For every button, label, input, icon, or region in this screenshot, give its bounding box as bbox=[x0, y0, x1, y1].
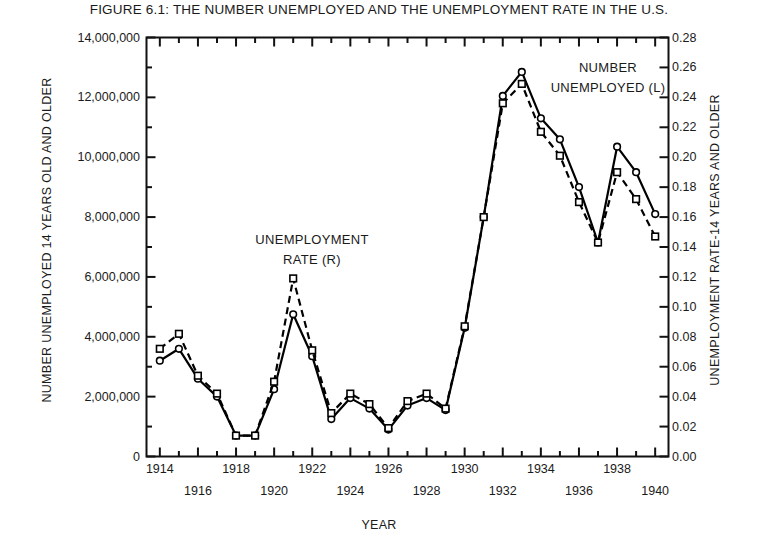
figure-unemployment-chart: FIGURE 6.1: THE NUMBER UNEMPLOYED AND TH… bbox=[0, 0, 758, 548]
data-point-marker-square bbox=[423, 390, 430, 397]
data-point-marker-square bbox=[328, 410, 335, 417]
data-point-marker-circle bbox=[519, 69, 526, 76]
annotation-number-line2: UNEMPLOYED (L) bbox=[528, 78, 688, 98]
annotation-number-line1: NUMBER bbox=[528, 58, 688, 78]
data-point-marker-square bbox=[633, 196, 640, 203]
data-point-marker-square bbox=[233, 432, 240, 439]
data-point-marker-square bbox=[442, 405, 449, 412]
data-point-marker-circle bbox=[157, 357, 164, 364]
data-point-marker-circle bbox=[176, 346, 183, 353]
data-point-marker-square bbox=[290, 275, 297, 282]
annotation-rate-line1: UNEMPLOYMENT bbox=[222, 230, 402, 250]
data-point-marker-square bbox=[366, 401, 373, 408]
data-point-marker-square bbox=[271, 378, 278, 385]
data-point-marker-square bbox=[519, 81, 526, 88]
data-point-marker-square bbox=[614, 169, 621, 176]
data-point-marker-circle bbox=[576, 184, 583, 191]
data-point-marker-square bbox=[500, 100, 507, 107]
data-point-marker-square bbox=[176, 331, 183, 338]
data-point-marker-square bbox=[195, 372, 202, 379]
data-point-marker-square bbox=[309, 347, 316, 354]
data-point-marker-square bbox=[652, 233, 659, 240]
data-point-marker-circle bbox=[538, 115, 545, 122]
data-point-marker-square bbox=[557, 152, 564, 159]
data-point-marker-circle bbox=[633, 169, 640, 176]
data-point-marker-circle bbox=[652, 211, 659, 218]
annotation-unemployment-rate: UNEMPLOYMENT RATE (R) bbox=[222, 230, 402, 270]
data-point-marker-square bbox=[595, 239, 602, 246]
data-point-marker-square bbox=[538, 129, 545, 136]
annotation-rate-line2: RATE (R) bbox=[222, 250, 402, 270]
data-point-marker-circle bbox=[614, 143, 621, 150]
data-point-marker-square bbox=[347, 390, 354, 397]
data-point-marker-square bbox=[385, 425, 392, 432]
data-point-marker-square bbox=[480, 214, 487, 221]
data-point-marker-square bbox=[214, 390, 221, 397]
data-point-marker-square bbox=[576, 199, 583, 206]
data-point-marker-square bbox=[461, 323, 468, 330]
data-point-marker-circle bbox=[500, 93, 507, 100]
data-point-marker-square bbox=[404, 398, 411, 405]
data-point-marker-circle bbox=[290, 311, 297, 318]
data-point-marker-square bbox=[252, 432, 259, 439]
data-point-marker-square bbox=[157, 346, 164, 353]
data-point-marker-circle bbox=[557, 136, 564, 143]
annotation-number-unemployed: NUMBER UNEMPLOYED (L) bbox=[528, 58, 688, 98]
